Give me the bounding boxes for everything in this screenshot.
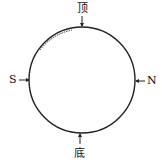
label-right: N xyxy=(147,75,157,86)
circle xyxy=(29,27,135,133)
right-arrow-icon xyxy=(135,79,145,83)
top-arrow-icon xyxy=(80,16,84,27)
label-left: S xyxy=(9,74,17,85)
bottom-arrow-icon xyxy=(78,133,82,144)
hatched-arc xyxy=(40,30,72,50)
label-bottom: 底 xyxy=(74,148,85,159)
compass-diagram xyxy=(0,0,162,164)
label-top: 顶 xyxy=(77,3,88,14)
